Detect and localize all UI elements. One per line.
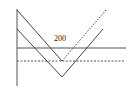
payoff-diagram: 200 (0, 0, 138, 88)
upper-v-right-leg (62, 10, 106, 61)
value-label: 200 (54, 34, 66, 43)
